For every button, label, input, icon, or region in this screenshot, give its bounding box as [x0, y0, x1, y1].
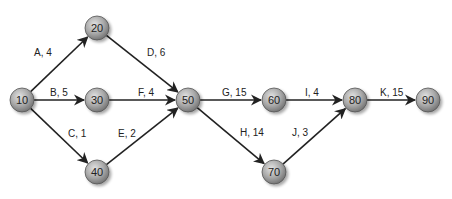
edge-label-10-40: C, 1	[68, 128, 87, 139]
node-10: 10	[10, 88, 34, 112]
node-label: 80	[349, 94, 361, 106]
edge-label-40-50: E, 2	[118, 128, 136, 139]
node-label: 60	[268, 94, 280, 106]
node-20: 20	[85, 16, 109, 40]
network-diagram: A, 4B, 5C, 1D, 6F, 4E, 2G, 15H, 14I, 4J,…	[0, 0, 452, 199]
edge-label-70-80: J, 3	[292, 127, 309, 138]
node-label: 10	[16, 94, 28, 106]
node-30: 30	[85, 88, 109, 112]
node-50: 50	[176, 88, 200, 112]
node-60: 60	[262, 88, 286, 112]
edge-label-60-80: I, 4	[305, 87, 319, 98]
edge-label-50-70: H, 14	[240, 127, 264, 138]
edge-label-20-50: D, 6	[147, 47, 166, 58]
node-90: 90	[416, 88, 440, 112]
edge-10-20	[31, 37, 88, 92]
edge-label-80-90: K, 15	[380, 87, 404, 98]
edge-label-10-30: B, 5	[50, 87, 68, 98]
node-label: 30	[91, 94, 103, 106]
node-label: 90	[422, 94, 434, 106]
node-label: 20	[91, 22, 103, 34]
node-label: 40	[91, 166, 103, 178]
edge-label-50-60: G, 15	[222, 87, 247, 98]
node-70: 70	[262, 160, 286, 184]
edge-20-50	[106, 35, 177, 91]
node-label: 50	[182, 94, 194, 106]
edge-label-10-20: A, 4	[34, 47, 52, 58]
node-label: 70	[268, 166, 280, 178]
node-40: 40	[85, 160, 109, 184]
node-80: 80	[343, 88, 367, 112]
edge-label-30-50: F, 4	[138, 87, 155, 98]
